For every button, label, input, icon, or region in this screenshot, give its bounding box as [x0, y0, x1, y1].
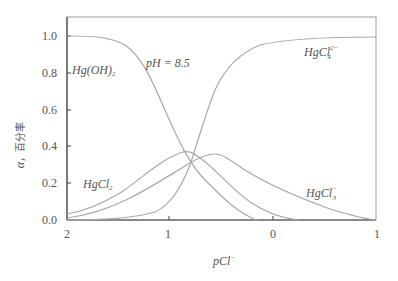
- y-axis-title: α，百分率: [13, 122, 27, 168]
- label-hgoh2: Hg(OH)2: [71, 63, 116, 78]
- x-axis-title: pCl−: [212, 254, 235, 268]
- label-hgcl2: HgCl2: [82, 177, 113, 192]
- label-hgcl3: HgCl−3: [305, 185, 337, 202]
- x-tick-label: 0: [270, 227, 276, 241]
- y-tick-label: 0.4: [42, 139, 57, 153]
- y-tick-label: 0.8: [42, 66, 57, 80]
- x-tick-label: 1: [165, 227, 171, 241]
- y-tick-label: 0.2: [42, 176, 57, 190]
- ph-annotation: pH = 8.5: [145, 56, 190, 70]
- speciation-chart: 0.0 0.2 0.4 0.6 0.8 1.0 2 1 0 1 Hg(OH)2 …: [0, 0, 398, 281]
- x-tick-label: 1: [374, 227, 380, 241]
- y-tick-label: 1.0: [42, 29, 57, 43]
- x-tick-label: 2: [64, 227, 70, 241]
- y-tick-label: 0.0: [42, 213, 57, 227]
- label-hgcl4: HgCl2−4: [303, 44, 339, 61]
- y-tick-label: 0.6: [42, 103, 57, 117]
